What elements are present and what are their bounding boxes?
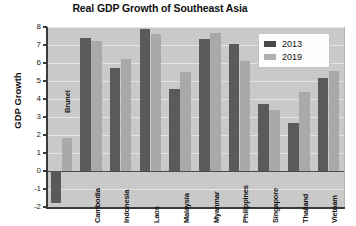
y-axis-tick <box>43 62 47 64</box>
bar-2013 <box>318 78 329 171</box>
x-axis-category-label: Vietnam <box>330 195 339 223</box>
bar-group <box>106 27 136 207</box>
bar-2013 <box>199 39 210 171</box>
x-axis-category-label: Singapore <box>271 188 280 223</box>
bar-group <box>136 27 166 207</box>
y-axis-tick-label: 4 <box>17 94 41 103</box>
x-axis-category-label: Indonesia <box>122 190 131 223</box>
y-axis-tick <box>43 170 47 172</box>
bar-group <box>166 27 196 207</box>
x-axis-category-label: Laos <box>152 206 161 223</box>
y-axis-tick-label: 5 <box>17 76 41 85</box>
y-axis-tick-label: 1 <box>17 148 41 157</box>
legend-item-2013: 2013 <box>264 37 325 50</box>
gdp-growth-bar-chart: Real GDP Growth of Southeast Asia GDP Gr… <box>0 0 356 226</box>
x-axis-category-label: Thailand <box>301 194 310 223</box>
bar-group <box>225 27 255 207</box>
legend-label-2019: 2019 <box>282 52 302 62</box>
chart-legend: 2013 2019 <box>258 33 330 68</box>
y-axis-tick <box>43 44 47 46</box>
y-axis-tick-label: 0 <box>17 166 41 175</box>
y-axis-tick-label: 2 <box>17 130 41 139</box>
chart-title: Real GDP Growth of Southeast Asia <box>40 2 280 14</box>
bar-2013 <box>258 104 269 171</box>
bar-2019 <box>121 59 132 171</box>
bar-group <box>196 27 226 207</box>
x-axis-category-label: Philippines <box>241 185 250 223</box>
x-axis-category-label: Malaysia <box>182 193 191 223</box>
y-axis-tick-label: -1 <box>17 184 41 193</box>
y-axis-tick-label: 6 <box>17 58 41 67</box>
bar-2019 <box>240 61 251 171</box>
y-axis-tick <box>43 116 47 118</box>
y-axis-tick <box>43 98 47 100</box>
y-axis-tick-label: -2 <box>17 202 41 211</box>
y-axis-tick <box>43 188 47 190</box>
x-axis-category-label: Myanmar <box>212 191 221 223</box>
bar-2019 <box>210 33 221 171</box>
y-axis-tick <box>43 152 47 154</box>
legend-swatch-2013-icon <box>264 41 276 47</box>
x-axis-category-label: Brunei <box>63 90 72 113</box>
bar-2013 <box>229 44 240 171</box>
y-axis-tick <box>43 80 47 82</box>
bar-group <box>47 27 77 207</box>
bar-2019 <box>151 34 162 171</box>
bar-2019 <box>91 41 102 171</box>
bar-2013 <box>140 29 151 171</box>
bar-group <box>77 27 107 207</box>
bar-2019 <box>299 92 310 171</box>
y-axis-tick-label: 7 <box>17 40 41 49</box>
bar-2019 <box>62 138 73 171</box>
legend-swatch-2019-icon <box>264 54 276 60</box>
bar-2013 <box>80 38 91 171</box>
y-axis-tick <box>43 134 47 136</box>
y-axis-tick <box>43 206 47 208</box>
y-axis-tick-label: 8 <box>17 22 41 31</box>
bar-2019 <box>329 71 340 171</box>
bar-2013 <box>110 68 121 171</box>
bar-2013 <box>51 171 62 203</box>
x-axis-category-label: Cambodia <box>93 188 102 223</box>
bar-2019 <box>180 72 191 171</box>
legend-item-2019: 2019 <box>264 50 325 63</box>
y-axis-tick-label: 3 <box>17 112 41 121</box>
bar-2013 <box>288 123 299 171</box>
bar-2019 <box>269 110 280 171</box>
bar-2013 <box>169 89 180 171</box>
y-axis-tick <box>43 26 47 28</box>
legend-label-2013: 2013 <box>282 39 302 49</box>
